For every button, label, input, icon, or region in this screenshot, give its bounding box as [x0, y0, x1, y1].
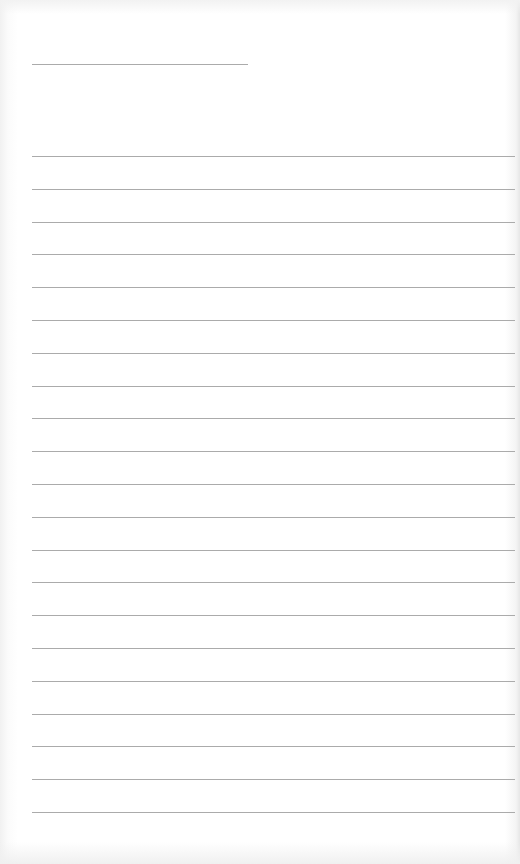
ruled-line [32, 812, 515, 813]
ruled-line [32, 287, 515, 288]
ruled-line [32, 517, 515, 518]
ruled-line [32, 746, 515, 747]
ruled-line [32, 189, 515, 190]
ruled-line [32, 779, 515, 780]
ruled-line [32, 681, 515, 682]
ruled-line [32, 582, 515, 583]
ruled-line [32, 156, 515, 157]
ruled-line [32, 222, 515, 223]
ruled-line [32, 418, 515, 419]
lined-paper-page [0, 0, 520, 864]
ruled-line [32, 648, 515, 649]
ruled-line [32, 550, 515, 551]
ruled-line [32, 320, 515, 321]
ruled-line [32, 484, 515, 485]
ruled-line [32, 386, 515, 387]
ruled-line [32, 254, 515, 255]
ruled-lines-area [0, 0, 520, 864]
ruled-line [32, 615, 515, 616]
ruled-line [32, 714, 515, 715]
ruled-line [32, 353, 515, 354]
ruled-line [32, 451, 515, 452]
